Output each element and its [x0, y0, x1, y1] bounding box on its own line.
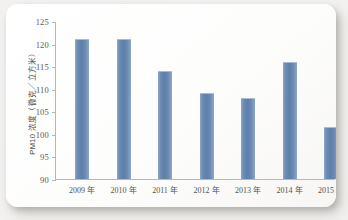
bar[interactable]: [283, 62, 297, 179]
y-tick-label: 120: [36, 40, 49, 50]
y-tick-label: 95: [40, 152, 49, 162]
y-tick-label: 105: [36, 107, 49, 117]
y-tick-label: 115: [36, 62, 49, 72]
bar-slot: 2010 年: [106, 21, 142, 179]
bar-series: 2009 年2010 年2011 年2012 年2013 年2014 年2015…: [55, 22, 335, 180]
y-tick-label: 125: [36, 17, 49, 27]
x-tick-label: 2012 年: [194, 184, 220, 195]
plot-area: 9095100105110115120125 2009 年2010 年2011 …: [55, 22, 335, 180]
chart-card: PM10 浓度（微克／立方米） 9095100105110115120125 2…: [6, 4, 336, 207]
chart-screenshot: PM10 浓度（微克／立方米） 9095100105110115120125 2…: [0, 0, 348, 220]
y-tick-label: 110: [36, 85, 49, 95]
bar-slot: 2014 年: [272, 21, 308, 179]
bar[interactable]: [75, 39, 89, 179]
x-tick-label: 2009 年: [69, 184, 95, 195]
bar-slot: 2009 年: [64, 21, 100, 179]
chart-card-surface: PM10 浓度（微克／立方米） 9095100105110115120125 2…: [6, 4, 336, 207]
y-tick-mark: [52, 180, 56, 181]
x-tick-label: 2015 年: [318, 184, 336, 195]
x-tick-label: 2014 年: [277, 184, 303, 195]
bar-slot: 2012 年: [189, 21, 225, 179]
y-tick-label: 100: [36, 130, 49, 140]
x-tick-label: 2013 年: [235, 184, 261, 195]
bar[interactable]: [117, 39, 131, 179]
bar[interactable]: [200, 93, 214, 179]
bar-slot: 2011 年: [147, 21, 183, 179]
bar[interactable]: [158, 71, 172, 179]
x-tick-label: 2011 年: [152, 184, 178, 195]
y-tick-label: 90: [40, 175, 49, 185]
bar-slot: 2015 年: [313, 21, 336, 179]
bar-slot: 2013 年: [230, 21, 266, 179]
x-tick-label: 2010 年: [111, 184, 137, 195]
bar[interactable]: [324, 127, 336, 179]
bar[interactable]: [241, 98, 255, 179]
